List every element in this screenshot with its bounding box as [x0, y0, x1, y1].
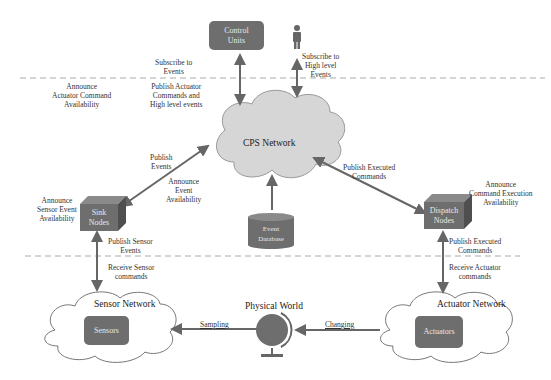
label-publish-executed-top: Publish ExecutedCommands	[343, 163, 395, 181]
label-announce-command: AnnounceCommand ExecutionAvailability	[469, 180, 533, 207]
cps-network-title: CPS Network	[243, 138, 296, 148]
label-announce-actuator: AnnounceActuator CommandAvailability	[52, 82, 111, 109]
label-publish-executed-bottom: Publish ExecutedCommands	[449, 237, 501, 255]
label-receive-actuator: Receive Actuatorcommands	[449, 263, 501, 281]
label-receive-sensor: Receive Sensorcommands	[108, 263, 154, 281]
globe-icon	[256, 313, 292, 357]
label-publish-events: PublishEvents	[150, 153, 173, 171]
label-publish-actuator: Publish ActuatorCommands andHigh level e…	[150, 82, 203, 109]
label-changing: Changing	[325, 320, 354, 329]
sink-nodes-label: SinkNodes	[80, 204, 118, 231]
dispatch-nodes-label: DispatchNodes	[424, 202, 464, 229]
person-icon	[293, 25, 301, 49]
control-units-node: ControlUnits	[209, 21, 264, 50]
sensor-network-title: Sensor Network	[94, 299, 155, 309]
label-subscribe-high: Subscribe toHigh levelEvents	[302, 52, 339, 79]
label-sampling: Sampling	[200, 320, 229, 329]
sensors-node: Sensors	[84, 316, 129, 345]
label-announce-event: AnnounceEventAvailability	[166, 177, 201, 204]
event-database-label: EventDatabase	[248, 222, 294, 246]
actuator-network-title: Actuator Network	[437, 299, 506, 309]
label-subscribe-events: Subscribe toEvents	[155, 58, 192, 76]
actuators-node: Actuators	[415, 316, 463, 348]
physical-world-title: Physical World	[245, 301, 303, 311]
label-publish-sensor: Publish SensorEvents	[108, 237, 153, 255]
label-announce-sensor: AnnounceSensor EventAvailability	[37, 196, 77, 223]
